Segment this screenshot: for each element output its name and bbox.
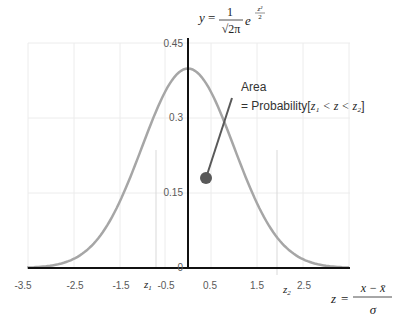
x-tick-label: -2.5 <box>66 280 84 291</box>
z2-label: z2 <box>282 283 291 297</box>
area-annotation-title: Area <box>241 80 267 94</box>
area-pointer-dot <box>200 172 212 184</box>
svg-text:x − x̄: x − x̄ <box>360 281 386 295</box>
svg-text:=: = <box>208 10 215 25</box>
svg-text:=: = <box>341 291 348 306</box>
area-annotation-probability: = Probability[z₁ < z < z₂] <box>241 99 365 113</box>
x-tick-label: 2.5 <box>297 280 311 291</box>
x-tick-label: 0.5 <box>203 280 217 291</box>
svg-text:1: 1 <box>227 5 233 19</box>
svg-text:z²: z² <box>257 5 264 13</box>
x-tick-label: -3.5 <box>14 280 32 291</box>
z-definition: z = x − x̄ σ <box>330 281 392 317</box>
pdf-formula: y = 1 √2π e z² 2 <box>197 5 265 36</box>
svg-text:√2π: √2π <box>222 22 241 36</box>
svg-text:e: e <box>245 13 251 28</box>
svg-text:σ: σ <box>370 302 377 317</box>
x-tick-label: -0.5 <box>157 280 175 291</box>
x-tick-label: -1.5 <box>112 280 130 291</box>
normal-distribution-chart: 0.45 0.3 0.15 0 -3.5 -2.5 -1.5 -0.5 0.5 … <box>0 0 393 324</box>
svg-text:2: 2 <box>258 13 262 21</box>
svg-text:y: y <box>197 10 205 25</box>
y-tick-label: 0.3 <box>169 112 183 123</box>
y-tick-label: 0.15 <box>164 187 184 198</box>
svg-text:z: z <box>330 291 336 306</box>
z1-label: z1 <box>143 278 152 292</box>
x-tick-label: 1.5 <box>250 280 264 291</box>
y-tick-label: 0.45 <box>164 38 184 49</box>
y-tick-label: 0 <box>177 262 183 273</box>
